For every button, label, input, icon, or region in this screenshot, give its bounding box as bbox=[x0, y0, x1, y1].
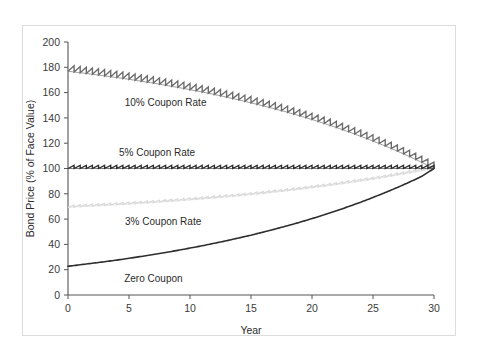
x-axis-title: Year bbox=[240, 324, 262, 336]
x-tick-label: 30 bbox=[428, 302, 440, 314]
x-tick-label: 10 bbox=[184, 302, 196, 314]
axes-layer: 020406080100120140160180200051015202530Y… bbox=[24, 36, 440, 336]
y-tick-label: 200 bbox=[42, 36, 60, 48]
series-label-2: 3% Coupon Rate bbox=[125, 216, 202, 227]
series-line-1 bbox=[68, 165, 434, 168]
y-tick-label: 180 bbox=[42, 61, 60, 73]
series-layer bbox=[68, 66, 434, 267]
series-label-1: 5% Coupon Rate bbox=[119, 147, 196, 158]
y-tick-label: 40 bbox=[48, 238, 60, 250]
x-tick-label: 0 bbox=[65, 302, 71, 314]
x-tick-label: 20 bbox=[306, 302, 318, 314]
y-tick-label: 20 bbox=[48, 263, 60, 275]
x-tick-label: 15 bbox=[245, 302, 257, 314]
series-line-3 bbox=[68, 169, 434, 267]
series-label-3: Zero Coupon bbox=[124, 273, 182, 284]
series-envelope-2 bbox=[68, 169, 434, 208]
y-tick-label: 0 bbox=[54, 289, 60, 301]
y-tick-label: 140 bbox=[42, 112, 60, 124]
y-tick-label: 80 bbox=[48, 188, 60, 200]
y-tick-label: 60 bbox=[48, 213, 60, 225]
y-tick-label: 160 bbox=[42, 86, 60, 98]
series-label-0: 10% Coupon Rate bbox=[125, 97, 207, 108]
chart-figure: 020406080100120140160180200051015202530Y… bbox=[0, 0, 478, 362]
series-labels-layer: 10% Coupon Rate5% Coupon Rate3% Coupon R… bbox=[119, 97, 207, 284]
series-line-2 bbox=[68, 167, 434, 208]
y-axis-title: Bond Price (% of Face Value) bbox=[24, 100, 36, 238]
chart-plot-area: 020406080100120140160180200051015202530Y… bbox=[0, 0, 478, 362]
y-tick-label: 120 bbox=[42, 137, 60, 149]
y-tick-label: 100 bbox=[42, 162, 60, 174]
x-tick-label: 5 bbox=[126, 302, 132, 314]
x-tick-label: 25 bbox=[367, 302, 379, 314]
